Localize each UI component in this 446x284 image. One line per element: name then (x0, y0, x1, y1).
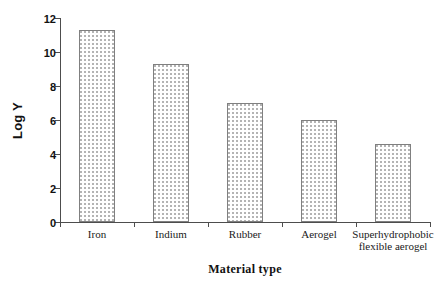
y-axis-tick-label: 0 (50, 217, 56, 229)
bar (301, 120, 337, 222)
x-axis-line (60, 222, 430, 223)
x-axis-title: Material type (60, 262, 430, 277)
y-axis-tick-label: 10 (44, 47, 56, 59)
y-axis-title: Log Y (0, 0, 34, 240)
x-axis-tick-label: Superhydrophobicflexible aerogel (348, 228, 438, 252)
plot-area: 024681012 (60, 18, 430, 222)
y-axis-tick-label: 12 (44, 13, 56, 25)
y-axis-tick-label: 4 (50, 149, 56, 161)
x-axis-tick-mark (208, 222, 209, 227)
y-axis-tick-label: 8 (50, 81, 56, 93)
bar-chart-figure: Log Y 024681012 IronIndiumRubberAerogelS… (0, 0, 446, 284)
x-axis-tick-mark (282, 222, 283, 227)
bar (79, 30, 115, 222)
y-axis-tick-label: 2 (50, 183, 56, 195)
x-axis-tick-label-line: Superhydrophobic (348, 228, 438, 240)
y-axis-title-text: Log Y (10, 102, 25, 139)
y-axis-line (60, 18, 61, 222)
x-axis-tick-mark (134, 222, 135, 227)
x-axis-tick-mark (430, 222, 431, 227)
x-axis-tick-label-line: flexible aerogel (348, 240, 438, 252)
y-axis-tick-label: 6 (50, 115, 56, 127)
x-axis-tick-mark (356, 222, 357, 227)
bar (227, 103, 263, 222)
bar (153, 64, 189, 222)
bar (375, 144, 411, 222)
x-axis-tick-mark (60, 222, 61, 227)
